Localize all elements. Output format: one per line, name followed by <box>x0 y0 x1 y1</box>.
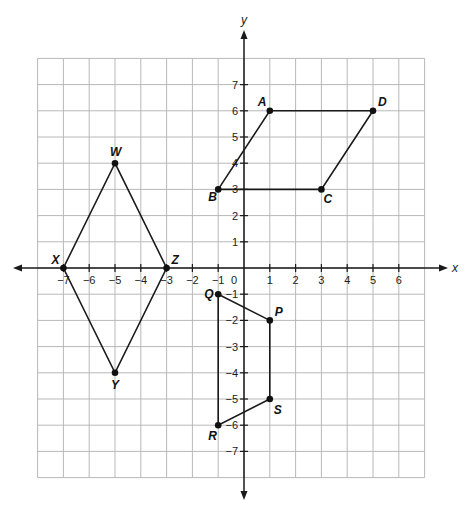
vertex-point-y <box>112 370 119 377</box>
vertex-point-z <box>163 265 170 272</box>
x-tick-label: 5 <box>370 274 376 286</box>
vertex-label-a: A <box>257 95 267 109</box>
vertex-point-w <box>112 160 119 167</box>
y-tick-label: 6 <box>232 105 238 117</box>
vertex-label-d: D <box>378 95 387 109</box>
y-tick-label: −2 <box>225 314 238 326</box>
vertex-point-x <box>60 265 67 272</box>
vertex-point-r <box>215 422 222 429</box>
y-tick-label: −4 <box>225 367 238 379</box>
x-axis-label: x <box>451 261 459 275</box>
y-axis-top-arrow-icon <box>241 30 248 39</box>
x-axis-right-arrow-icon <box>439 265 448 272</box>
x-tick-label: 0 <box>231 274 237 286</box>
x-tick-label: −5 <box>109 274 122 286</box>
y-tick-label: 1 <box>232 236 238 248</box>
vertex-point-a <box>267 108 274 115</box>
x-axis-left-arrow-icon <box>13 265 22 272</box>
y-tick-label: −3 <box>225 341 238 353</box>
x-tick-label: 3 <box>318 274 324 286</box>
vertex-point-p <box>267 317 274 324</box>
vertex-point-d <box>370 108 377 115</box>
vertex-label-q: Q <box>204 287 214 301</box>
vertex-label-p: P <box>275 305 284 319</box>
y-tick-label: 7 <box>232 79 238 91</box>
y-axis-bottom-arrow-icon <box>241 491 248 500</box>
x-tick-label: −6 <box>83 274 96 286</box>
x-tick-label: 4 <box>344 274 350 286</box>
y-axis-label: y <box>240 13 248 27</box>
vertex-label-x: X <box>50 253 60 267</box>
vertex-label-z: Z <box>171 253 180 267</box>
vertex-label-y: Y <box>111 378 120 392</box>
x-tick-label: −4 <box>135 274 148 286</box>
vertex-label-r: R <box>208 429 217 443</box>
x-tick-label: 1 <box>267 274 273 286</box>
y-tick-label: −7 <box>225 445 238 457</box>
x-tick-label: 2 <box>293 274 299 286</box>
vertex-label-b: B <box>208 190 217 204</box>
x-tick-label: 6 <box>396 274 402 286</box>
x-tick-label: −2 <box>186 274 199 286</box>
coordinate-plane: x y −7−6−5−4−3−2−101234567654321−1−2−3−4… <box>0 0 467 508</box>
vertex-label-c: C <box>323 192 332 206</box>
vertex-point-q <box>215 291 222 298</box>
x-tick-label: −1 <box>212 274 225 286</box>
y-tick-label: 5 <box>232 131 238 143</box>
y-tick-label: 2 <box>232 210 238 222</box>
vertex-label-w: W <box>110 145 123 159</box>
vertex-point-s <box>267 396 274 403</box>
y-tick-label: −5 <box>225 393 238 405</box>
vertex-label-s: S <box>274 403 282 417</box>
